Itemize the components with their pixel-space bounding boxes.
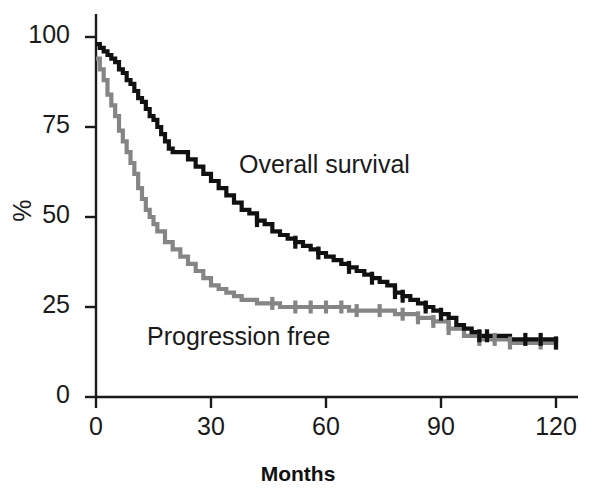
series-label-overall-survival: Overall survival	[239, 152, 410, 177]
y-axis-title: %	[10, 191, 35, 231]
x-tick-label-30: 30	[181, 414, 241, 439]
series-lines	[96, 44, 556, 343]
series-label-progression-free: Progression free	[147, 324, 330, 349]
x-axis-title: Months	[238, 463, 358, 484]
x-tick-label-120: 120	[526, 414, 586, 439]
y-tick-label-100: 100	[14, 22, 70, 47]
survival-chart-figure: 100 75 50 25 0 0 30 60 90 120 % Months O…	[0, 0, 592, 495]
x-tick-label-60: 60	[296, 414, 356, 439]
y-tick-label-0: 0	[14, 382, 70, 407]
y-tick-label-75: 75	[14, 112, 70, 137]
x-tick-label-0: 0	[66, 414, 126, 439]
x-tick-label-90: 90	[411, 414, 471, 439]
y-tick-label-25: 25	[14, 292, 70, 317]
